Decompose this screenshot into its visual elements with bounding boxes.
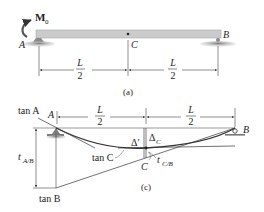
c-dim-right-num: L — [187, 104, 194, 115]
label-b: B — [223, 29, 229, 40]
tangent-a-line — [38, 118, 95, 148]
label-c: C — [141, 161, 148, 172]
moment-subscript: 0 — [45, 18, 49, 26]
dim-right-den: 2 — [171, 70, 176, 81]
dim-left-den: 2 — [78, 70, 83, 81]
label-t-cb-sub: C/B — [162, 160, 174, 168]
label-tan-a: tan A — [18, 105, 40, 116]
midpoint-dot — [127, 33, 130, 36]
elastic-curve — [56, 128, 235, 148]
c-dim-right-den: 2 — [189, 116, 194, 127]
tangent-b-line — [56, 128, 235, 188]
label-t-cb: t — [157, 154, 160, 165]
figure-a: M 0 A B C L 2 L 2 (a) — [18, 11, 236, 97]
label-c: C — [131, 39, 138, 50]
c-dim-left-num: L — [96, 104, 103, 115]
c-dim-left-den: 2 — [98, 116, 103, 127]
label-tan-b: tan B — [39, 193, 61, 204]
label-delta-c: Δ — [149, 132, 156, 143]
dim-right-num: L — [169, 57, 176, 68]
pin-support-left — [23, 38, 55, 47]
label-tan-c: tan C — [92, 152, 114, 163]
roller-support-right — [200, 38, 236, 47]
moment-arrow-icon — [22, 20, 31, 37]
label-t-ab: t — [18, 151, 21, 162]
dim-left-num: L — [76, 57, 83, 68]
caption-a: (a) — [123, 87, 133, 97]
point-c-prime-dot — [145, 147, 148, 150]
beam-deflection-diagram: M 0 A B C L 2 L 2 (a) — [0, 0, 264, 212]
figure-c: L 2 L 2 — [18, 104, 249, 204]
label-b-c: B — [243, 124, 249, 135]
caption-c: (c) — [141, 182, 151, 192]
label-delta-prime: Δ′ — [131, 137, 140, 148]
label-t-ab-sub: A/B — [22, 157, 34, 165]
label-a-c: A — [47, 109, 55, 120]
label-delta-c-sub: C — [156, 138, 161, 146]
label-a: A — [18, 39, 26, 50]
